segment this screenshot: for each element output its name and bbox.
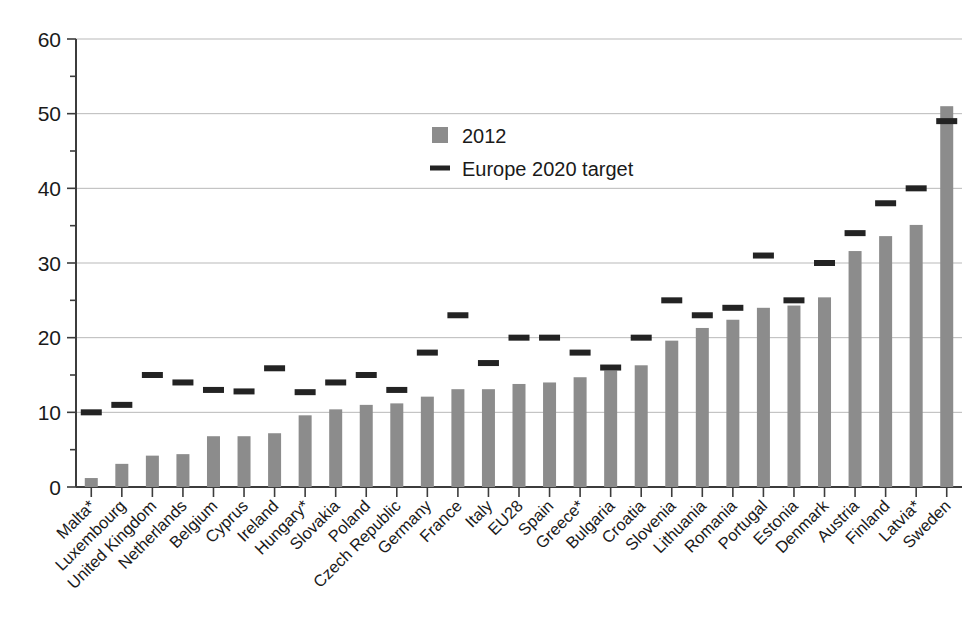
target-marker-eu28[interactable] [509, 335, 530, 341]
target-marker-latvia[interactable] [906, 185, 927, 191]
bar-cyprus[interactable] [238, 436, 251, 487]
y-tick-label: 10 [38, 401, 61, 424]
target-marker-malta[interactable] [81, 409, 102, 415]
bar-germany[interactable] [421, 397, 434, 487]
target-marker-austria[interactable] [845, 230, 866, 236]
y-tick-label: 0 [49, 476, 61, 499]
bar-hungary[interactable] [299, 415, 312, 487]
bar-belgium[interactable] [207, 436, 220, 487]
bar-estonia[interactable] [787, 306, 800, 487]
y-tick-label: 30 [38, 252, 61, 275]
target-marker-greece[interactable] [570, 350, 591, 356]
bar-luxembourg[interactable] [115, 464, 128, 487]
target-marker-ireland[interactable] [264, 365, 285, 371]
target-marker-estonia[interactable] [783, 297, 804, 303]
target-marker-slovakia[interactable] [325, 379, 346, 385]
bar-portugal[interactable] [757, 308, 770, 487]
bar-finland[interactable] [879, 236, 892, 487]
target-marker-cyprus[interactable] [234, 388, 255, 394]
bar-eu28[interactable] [513, 384, 526, 487]
legend-label: 2012 [462, 125, 507, 147]
bar-france[interactable] [451, 389, 464, 487]
target-marker-germany[interactable] [417, 350, 438, 356]
bar-slovakia[interactable] [329, 409, 342, 487]
bar-sweden[interactable] [940, 106, 953, 487]
bar-denmark[interactable] [818, 297, 831, 487]
target-marker-portugal[interactable] [753, 253, 774, 259]
target-marker-luxembourg[interactable] [111, 402, 132, 408]
y-tick-label: 20 [38, 326, 61, 349]
target-marker-lithuania[interactable] [692, 312, 713, 318]
y-tick-label: 60 [38, 28, 61, 51]
bar-austria[interactable] [849, 251, 862, 487]
target-marker-slovenia[interactable] [661, 297, 682, 303]
bar-netherlands[interactable] [176, 454, 189, 487]
target-marker-belgium[interactable] [203, 387, 224, 393]
bar-ireland[interactable] [268, 433, 281, 487]
target-marker-italy[interactable] [478, 360, 499, 366]
target-marker-sweden[interactable] [936, 118, 957, 124]
bar-malta[interactable] [85, 478, 98, 487]
bar-croatia[interactable] [635, 365, 648, 487]
bar-poland[interactable] [360, 405, 373, 487]
y-tick-label: 50 [38, 102, 61, 125]
bar-lithuania[interactable] [696, 328, 709, 487]
bar-spain[interactable] [543, 382, 556, 487]
bar-chart-svg: 0102030405060Malta*LuxembourgUnited King… [0, 0, 973, 632]
chart-container: 0102030405060Malta*LuxembourgUnited King… [0, 0, 973, 632]
y-tick-label: 40 [38, 177, 61, 200]
target-marker-bulgaria[interactable] [600, 365, 621, 371]
target-marker-spain[interactable] [539, 335, 560, 341]
target-marker-united-kingdom[interactable] [142, 372, 163, 378]
target-marker-finland[interactable] [875, 200, 896, 206]
target-marker-denmark[interactable] [814, 260, 835, 266]
legend-swatch-2012 [432, 127, 448, 143]
bar-czech-republic[interactable] [390, 403, 403, 487]
bar-slovenia[interactable] [665, 341, 678, 487]
target-marker-netherlands[interactable] [172, 379, 193, 385]
target-marker-hungary[interactable] [295, 389, 316, 395]
legend-dash-target [430, 166, 450, 171]
target-marker-poland[interactable] [356, 372, 377, 378]
target-marker-croatia[interactable] [631, 335, 652, 341]
bar-united-kingdom[interactable] [146, 456, 159, 487]
target-marker-czech-republic[interactable] [386, 387, 407, 393]
target-marker-romania[interactable] [722, 305, 743, 311]
bar-latvia[interactable] [910, 225, 923, 487]
bar-bulgaria[interactable] [604, 371, 617, 487]
target-marker-france[interactable] [447, 312, 468, 318]
bar-italy[interactable] [482, 389, 495, 487]
legend-label: Europe 2020 target [462, 158, 634, 180]
bar-romania[interactable] [726, 320, 739, 487]
bar-greece[interactable] [574, 377, 587, 487]
